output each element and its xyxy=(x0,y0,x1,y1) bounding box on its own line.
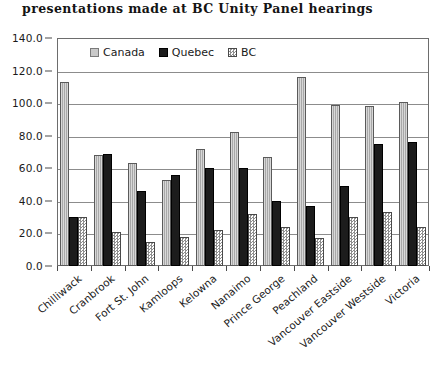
bar-group xyxy=(60,38,87,266)
bar-quebec xyxy=(306,206,315,266)
x-axis: ChilliwackCranbrookFort St. JohnKamloops… xyxy=(0,266,443,367)
y-tick-label: 60.0 xyxy=(19,162,43,174)
bar-canada xyxy=(230,132,239,266)
bar-quebec xyxy=(205,168,214,266)
bar-canada xyxy=(399,102,408,266)
bar-bc xyxy=(349,217,358,266)
bar-canada xyxy=(297,77,306,266)
bar-bc xyxy=(417,227,426,266)
legend-swatch-bc-icon xyxy=(228,48,237,57)
y-tick-label: 20.0 xyxy=(19,227,43,239)
y-tick-mark xyxy=(45,103,52,104)
y-tick-label: 140.0 xyxy=(12,32,43,44)
legend-item-quebec: Quebec xyxy=(159,46,214,59)
bar-quebec xyxy=(374,144,383,266)
bar-quebec xyxy=(272,201,281,266)
bar-canada xyxy=(263,157,272,266)
legend-label: BC xyxy=(241,46,256,59)
bar-group xyxy=(331,38,358,266)
legend-item-canada: Canada xyxy=(90,46,145,59)
bar-group xyxy=(365,38,392,266)
bar-quebec xyxy=(171,175,180,266)
y-tick-label: 40.0 xyxy=(19,195,43,207)
chart-title: presentations made at BC Unity Panel hea… xyxy=(22,1,373,16)
legend-swatch-canada-icon xyxy=(90,48,99,57)
legend-label: Quebec xyxy=(172,46,214,59)
bar-bc xyxy=(78,217,87,266)
bar-group xyxy=(263,38,290,266)
bar-canada xyxy=(128,163,137,266)
y-tick-label: 100.0 xyxy=(12,97,43,109)
bar-group xyxy=(162,38,189,266)
y-tick-mark xyxy=(45,168,52,169)
bar-quebec xyxy=(340,186,349,266)
bar-bc xyxy=(146,242,155,266)
bar-canada xyxy=(162,180,171,266)
bar-bc xyxy=(180,237,189,266)
bar-bc xyxy=(112,232,121,266)
legend-item-bc: BC xyxy=(228,46,256,59)
x-tick-label: Victoria xyxy=(383,272,422,307)
legend-swatch-quebec-icon xyxy=(159,48,168,57)
bar-canada xyxy=(365,106,374,266)
bar-canada xyxy=(331,105,340,266)
bar-quebec xyxy=(239,168,248,266)
y-tick-label: 120.0 xyxy=(12,65,43,77)
bar-group xyxy=(196,38,223,266)
bar-group xyxy=(128,38,155,266)
chart-legend: CanadaQuebecBC xyxy=(90,46,256,59)
bar-bc xyxy=(315,238,324,266)
bar-bc xyxy=(281,227,290,266)
bar-bc xyxy=(248,214,257,266)
bar-group xyxy=(94,38,121,266)
bar-group xyxy=(399,38,426,266)
bar-canada xyxy=(60,82,69,266)
bar-quebec xyxy=(137,191,146,266)
bar-canada xyxy=(94,155,103,266)
y-tick-mark xyxy=(45,38,52,39)
y-tick-mark xyxy=(45,200,52,201)
bars-layer xyxy=(57,38,429,266)
y-tick-mark xyxy=(45,135,52,136)
y-tick-mark xyxy=(45,70,52,71)
bar-quebec xyxy=(408,142,417,266)
bar-quebec xyxy=(69,217,78,266)
bar-bc xyxy=(214,230,223,266)
bar-group xyxy=(297,38,324,266)
bar-canada xyxy=(196,149,205,266)
y-axis: 140.0120.0100.080.060.040.020.00.0 xyxy=(0,38,52,266)
legend-label: Canada xyxy=(103,46,145,59)
y-tick-label: 80.0 xyxy=(19,130,43,142)
bar-quebec xyxy=(103,154,112,266)
bar-bc xyxy=(383,212,392,266)
y-tick-mark xyxy=(45,233,52,234)
bar-group xyxy=(230,38,257,266)
